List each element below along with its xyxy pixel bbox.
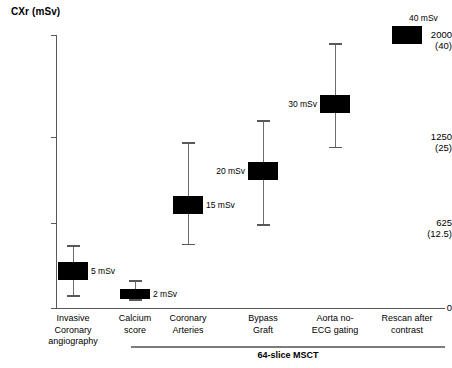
x-axis-label-coronary-arteries: Coronary Arteries [150, 313, 226, 336]
datapoint-value-label: 5 mSv [91, 266, 115, 276]
error-bar-cap-upper [329, 43, 342, 45]
x-axis-label-line1: Rescan after [367, 313, 447, 325]
error-bar-cap-lower [67, 295, 80, 297]
error-bar-cap-lower [257, 224, 270, 226]
marker-box[interactable] [173, 196, 203, 214]
x-axis-label-line2: Arteries [150, 325, 226, 337]
datapoint-value-label: 20 mSv [216, 166, 245, 176]
marker-box[interactable] [392, 26, 422, 44]
y-axis-label-0-primary: 0 [447, 302, 452, 313]
datapoint-value-label: 40 mSv [409, 13, 438, 23]
x-axis-label-line1: Bypass [230, 313, 296, 325]
marker-box[interactable] [58, 262, 88, 280]
x-axis-label-bypass-graft: Bypass Graft [230, 313, 296, 336]
x-axis-label-line2: contrast [367, 325, 447, 337]
error-bar-cap-upper [257, 120, 270, 122]
x-axis-label-line1: Aorta no- [295, 313, 375, 325]
x-axis-label-rescan-after-contrast: Rescan after contrast [367, 313, 447, 336]
group-bracket-label: 64-slice MSCT [131, 350, 445, 360]
chart-figure: CXr (mSv) 2000 (40) 1250 (25) 625 (12.5)… [0, 0, 452, 368]
y-axis-title: CXr (mSv) [11, 6, 60, 17]
marker-box[interactable] [248, 162, 278, 180]
x-axis-label-line2: ECG gating [295, 325, 375, 337]
x-axis-label-line3: angiography [31, 336, 115, 348]
datapoint-value-label: 2 mSv [153, 289, 177, 299]
datapoint-value-label: 15 mSv [206, 200, 235, 210]
error-bar-cap-lower [129, 299, 142, 301]
error-bar-line [188, 142, 189, 244]
y-axis-tick-0 [51, 308, 57, 309]
error-bar-cap-lower [329, 147, 342, 149]
x-axis-line [56, 308, 445, 309]
datapoint-value-label: 30 mSv [288, 99, 317, 109]
plot-area: 5 mSv2 mSv15 mSv20 mSv30 mSv40 mSv [57, 35, 445, 308]
x-axis-label-aorta-no-ecg-gating: Aorta no- ECG gating [295, 313, 375, 336]
group-bracket-line [131, 346, 445, 348]
error-bar-cap-upper [67, 245, 80, 247]
error-bar-cap-upper [182, 142, 195, 144]
x-axis-label-line1: Coronary [150, 313, 226, 325]
x-axis-label-line2: Graft [230, 325, 296, 337]
error-bar-cap-upper [129, 280, 142, 282]
marker-box[interactable] [320, 95, 350, 113]
marker-box[interactable] [120, 289, 150, 299]
error-bar-cap-lower [182, 244, 195, 246]
